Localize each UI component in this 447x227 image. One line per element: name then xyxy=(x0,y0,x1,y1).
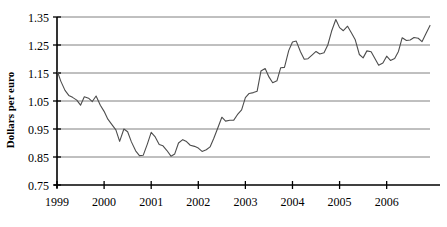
x-axis-tick-label: 2000 xyxy=(92,195,116,209)
x-axis-tick-label: 2002 xyxy=(186,195,210,209)
x-axis-tick-label: 2005 xyxy=(328,195,352,209)
x-axis-tick-label: 2001 xyxy=(139,195,163,209)
y-axis-tick-label: 1.35 xyxy=(28,11,49,25)
chart-container: 0.750.850.951.051.151.251.35199920002001… xyxy=(0,0,447,227)
y-axis-title: Dollars per euro xyxy=(4,71,16,148)
x-axis-tick-label: 2004 xyxy=(280,195,304,209)
x-axis-tick-label: 1999 xyxy=(45,195,69,209)
y-axis-tick-label: 1.05 xyxy=(28,95,49,109)
x-axis-tick-label: 2006 xyxy=(375,195,399,209)
x-axis-tick-label: 2003 xyxy=(233,195,257,209)
data-series-line xyxy=(57,20,430,157)
y-axis-tick-label: 0.85 xyxy=(28,151,49,165)
y-axis-tick-label: 0.75 xyxy=(28,179,49,193)
y-axis-tick-label: 0.95 xyxy=(28,123,49,137)
line-chart: 0.750.850.951.051.151.251.35199920002001… xyxy=(0,0,447,227)
y-axis-tick-label: 1.25 xyxy=(28,39,49,53)
y-axis-tick-label: 1.15 xyxy=(28,67,49,81)
